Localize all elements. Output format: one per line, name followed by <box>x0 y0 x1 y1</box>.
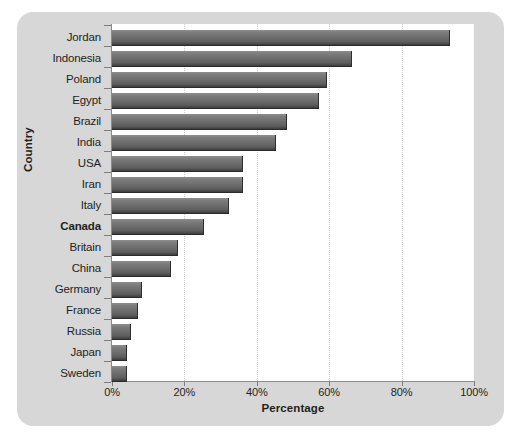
bar-row <box>112 111 474 133</box>
y-tick <box>104 67 111 68</box>
bar-poland <box>112 72 327 88</box>
bar-france <box>112 303 138 319</box>
bar-row <box>112 342 474 364</box>
category-label-france: France <box>9 304 101 316</box>
bar-row <box>112 321 474 343</box>
y-tick <box>104 151 111 152</box>
y-axis-category-labels: JordanIndonesiaPolandEgyptBrazilIndiaUSA… <box>0 0 101 447</box>
category-label-japan: Japan <box>9 346 101 358</box>
y-tick <box>104 214 111 215</box>
y-tick <box>104 88 111 89</box>
bar-row <box>112 300 474 322</box>
category-label-brazil: Brazil <box>9 115 101 127</box>
bar-usa <box>112 156 243 172</box>
y-tick <box>104 277 111 278</box>
bar-china <box>112 261 171 277</box>
category-label-jordan: Jordan <box>9 31 101 43</box>
bar-row <box>112 363 474 385</box>
category-label-poland: Poland <box>9 73 101 85</box>
y-tick <box>104 382 111 383</box>
bar-russia <box>112 324 131 340</box>
bar-brazil <box>112 114 287 130</box>
bar-row <box>112 90 474 112</box>
x-tick-mark <box>474 382 475 386</box>
bar-iran <box>112 177 243 193</box>
x-tick-mark <box>402 382 403 386</box>
gridline <box>474 24 475 381</box>
y-tick <box>104 25 111 26</box>
y-tick <box>104 235 111 236</box>
category-label-china: China <box>9 262 101 274</box>
x-tick-mark <box>112 382 113 386</box>
x-tick-label: 40% <box>227 386 287 398</box>
bar-japan <box>112 345 127 361</box>
y-axis-title: Country <box>22 127 34 172</box>
bar-row <box>112 153 474 175</box>
bar-row <box>112 69 474 91</box>
y-tick <box>104 193 111 194</box>
y-tick <box>104 130 111 131</box>
x-tick-label: 20% <box>154 386 214 398</box>
bar-indonesia <box>112 51 352 67</box>
category-label-iran: Iran <box>9 178 101 190</box>
bar-row <box>112 48 474 70</box>
bar-egypt <box>112 93 319 109</box>
bar-row <box>112 258 474 280</box>
y-tick <box>104 172 111 173</box>
x-tick-mark <box>257 382 258 386</box>
x-tick-label: 60% <box>299 386 359 398</box>
chart-figure: JordanIndonesiaPolandEgyptBrazilIndiaUSA… <box>0 0 521 447</box>
bar-row <box>112 237 474 259</box>
y-tick <box>104 256 111 257</box>
bar-row <box>112 174 474 196</box>
bar-row <box>112 27 474 49</box>
x-tick-label: 100% <box>444 386 504 398</box>
bar-britain <box>112 240 178 256</box>
bar-italy <box>112 198 229 214</box>
bar-row <box>112 216 474 238</box>
bar-germany <box>112 282 142 298</box>
x-tick-label: 80% <box>372 386 432 398</box>
bar-row <box>112 279 474 301</box>
bar-row <box>112 132 474 154</box>
bar-row <box>112 195 474 217</box>
bar-india <box>112 135 276 151</box>
category-label-egypt: Egypt <box>9 94 101 106</box>
x-tick-mark <box>184 382 185 386</box>
category-label-italy: Italy <box>9 199 101 211</box>
category-label-sweden: Sweden <box>9 367 101 379</box>
bar-sweden <box>112 366 127 382</box>
bar-canada <box>112 219 204 235</box>
category-label-russia: Russia <box>9 325 101 337</box>
category-label-canada: Canada <box>9 220 101 232</box>
x-tick-label: 0% <box>82 386 142 398</box>
category-label-germany: Germany <box>9 283 101 295</box>
y-tick <box>104 46 111 47</box>
category-label-indonesia: Indonesia <box>9 52 101 64</box>
y-tick <box>104 340 111 341</box>
x-axis-title: Percentage <box>112 402 474 414</box>
y-tick <box>104 298 111 299</box>
y-tick <box>104 319 111 320</box>
category-label-britain: Britain <box>9 241 101 253</box>
x-tick-mark <box>329 382 330 386</box>
y-tick <box>104 109 111 110</box>
bar-jordan <box>112 30 450 46</box>
y-tick <box>104 361 111 362</box>
